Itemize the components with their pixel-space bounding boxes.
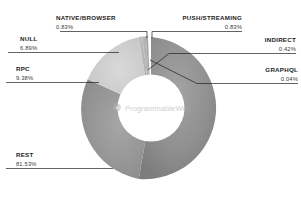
callout-rest-name: REST [16, 151, 37, 159]
callout-graphql[interactable]: GRAPHQL 0.04% [216, 66, 298, 83]
callout-null[interactable]: NULL 6.89% [20, 35, 38, 52]
callout-push-streaming-name: PUSH/STREAMING [160, 14, 242, 22]
callout-push-streaming[interactable]: PUSH/STREAMING 0.83% [160, 14, 242, 31]
callout-null-value: 6.89% [20, 44, 38, 52]
callout-indirect-name: INDIRECT [214, 36, 296, 44]
callout-graphql-value: 0.04% [216, 75, 298, 83]
callout-indirect[interactable]: INDIRECT 0.42% [214, 36, 296, 53]
callout-native-browser-value: 0.83% [56, 23, 116, 31]
callout-rest-value: 81.53% [16, 160, 37, 168]
callout-rpc[interactable]: RPC 9.38% [16, 65, 33, 82]
donut-svg [76, 33, 226, 183]
callout-indirect-value: 0.42% [214, 45, 296, 53]
callout-push-streaming-value: 0.83% [160, 23, 242, 31]
callout-rpc-name: RPC [16, 65, 33, 73]
callout-native-browser-name: NATIVE/BROWSER [56, 14, 116, 22]
donut-graphic [76, 33, 226, 183]
donut-hole [118, 75, 185, 142]
callout-rest[interactable]: REST 81.53% [16, 151, 37, 168]
callout-native-browser[interactable]: NATIVE/BROWSER 0.83% [56, 14, 116, 31]
callout-graphql-name: GRAPHQL [216, 66, 298, 74]
donut-chart: ProgrammableWeb NATIVE/BROWSER 0.83% PUS… [0, 0, 301, 215]
callout-rpc-value: 9.38% [16, 74, 33, 82]
callout-null-name: NULL [20, 35, 38, 43]
